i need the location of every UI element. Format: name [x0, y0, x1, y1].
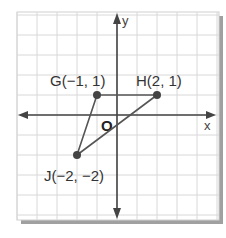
- point-G: [93, 91, 101, 99]
- point-G-label: G(−1, 1): [50, 72, 105, 89]
- x-axis-label: x: [204, 118, 211, 133]
- graph-paper: [17, 12, 219, 220]
- origin-label: O: [101, 117, 113, 134]
- point-H-label: H(2, 1): [136, 72, 182, 89]
- point-J: [73, 151, 81, 159]
- point-H: [153, 91, 161, 99]
- y-axis-label: y: [122, 13, 129, 28]
- coordinate-plane: x y O G(−1, 1) H(2, 1) J(−2, −2): [0, 0, 226, 238]
- point-J-label: J(−2, −2): [44, 167, 104, 184]
